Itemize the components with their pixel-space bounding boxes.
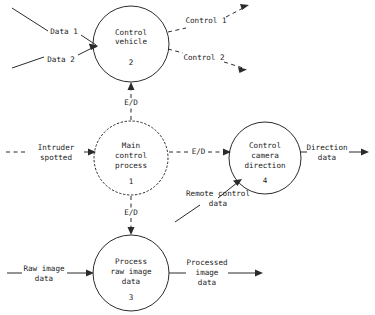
arrow-head-ed-bottom	[128, 227, 135, 235]
process-label-control-camera-direction-line3: direction	[244, 161, 285, 170]
flow-label-raw-image-data-line2: data	[35, 274, 53, 283]
process-number-control-camera-direction: 4	[263, 176, 268, 185]
process-label-main-control-process-line3: process	[115, 161, 147, 170]
flow-label-direction-data-line1: Direction	[306, 143, 347, 152]
process-label-control-vehicle-line1: Control	[115, 28, 147, 37]
flow-label-processed-image-data-line3: data	[198, 278, 216, 287]
flow-label-remote-control-data-line2: data	[209, 199, 227, 208]
process-label-control-vehicle-line2: vehicle	[115, 37, 147, 46]
process-label-process-raw-image-data-line1: Process	[115, 257, 147, 266]
flow-label-direction-data-line2: data	[318, 153, 336, 162]
flow-label-data-1: Data 1	[50, 27, 78, 36]
flow-label-remote-control-data-line1: Remote control	[186, 189, 250, 198]
arrow-head-ed-top	[128, 82, 135, 90]
process-label-control-camera-direction-line1: Control	[249, 141, 281, 150]
process-label-process-raw-image-data-line2: raw image	[110, 267, 152, 276]
process-number-control-vehicle: 2	[129, 58, 134, 67]
process-number-process-raw-image-data: 3	[129, 293, 134, 302]
data-flow-diagram: Control vehicle 2 Main control process 1…	[0, 0, 375, 315]
arrow-head-processed-image-data	[255, 270, 263, 277]
process-label-main-control-process-line2: control	[115, 151, 147, 160]
arrow-head-direction-data	[361, 149, 369, 156]
flow-label-ed-bottom: E/D	[124, 208, 138, 217]
flow-label-ed-middle: E/D	[192, 147, 206, 156]
flow-label-processed-image-data-line2: image	[196, 268, 219, 277]
flow-label-intruder-spotted-line1: Intruder	[38, 143, 75, 152]
process-number-main-control-process: 1	[129, 177, 134, 186]
flow-label-intruder-spotted-line2: spotted	[40, 153, 72, 162]
process-label-control-camera-direction-line2: camera	[251, 151, 278, 160]
flow-label-control-2: Control 2	[183, 53, 224, 62]
flow-label-control-1: Control 1	[185, 16, 227, 25]
process-label-main-control-process-line1: Main	[122, 141, 140, 150]
arrow-head-control-2	[238, 67, 247, 73]
process-label-process-raw-image-data-line3: data	[122, 277, 140, 286]
flow-label-raw-image-data-line1: Raw image	[23, 264, 65, 273]
flow-label-processed-image-data-line1: Processed	[186, 258, 227, 267]
flow-label-data-2: Data 2	[47, 55, 74, 64]
flow-label-ed-top: E/D	[124, 98, 138, 107]
diagram-canvas: Control vehicle 2 Main control process 1…	[0, 0, 375, 315]
